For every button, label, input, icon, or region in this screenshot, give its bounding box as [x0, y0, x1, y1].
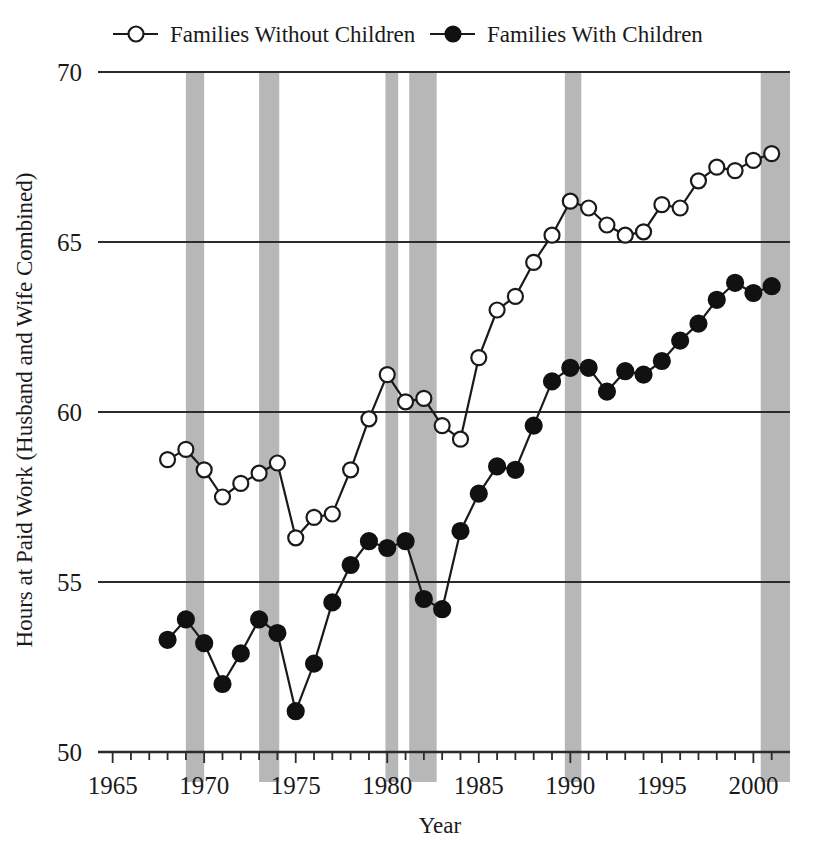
data-point: [526, 418, 542, 434]
data-point: [508, 289, 523, 304]
data-point: [727, 275, 743, 291]
legend-item-without-children: Families Without Children: [113, 22, 416, 47]
data-point: [545, 228, 560, 243]
x-tick-label: 1975: [271, 772, 321, 799]
data-point: [416, 391, 431, 406]
data-point: [343, 557, 359, 573]
data-point: [160, 452, 175, 467]
data-point: [196, 635, 212, 651]
data-point: [252, 466, 267, 481]
data-point: [361, 411, 376, 426]
data-point: [507, 462, 523, 478]
open-circle-icon: [129, 27, 144, 42]
shaded-band: [409, 72, 436, 782]
data-point: [288, 530, 303, 545]
data-point: [214, 676, 230, 692]
data-point: [562, 360, 578, 376]
data-point: [599, 218, 614, 233]
x-tick-label: 1980: [362, 772, 412, 799]
data-point: [746, 153, 761, 168]
data-point: [544, 373, 560, 389]
y-axis-labels: 5055606570: [57, 59, 82, 766]
data-point: [178, 611, 194, 627]
data-point: [728, 163, 743, 178]
line-chart: Families Without Children Families With …: [0, 0, 815, 851]
data-point: [471, 350, 486, 365]
filled-circle-icon: [446, 27, 461, 42]
data-point: [672, 333, 688, 349]
data-point: [398, 533, 414, 549]
x-axis-title: Year: [419, 813, 462, 838]
data-point: [361, 533, 377, 549]
data-point: [434, 601, 450, 617]
chart-legend: Families Without Children Families With …: [113, 22, 703, 47]
y-axis-title: Hours at Paid Work (Husband and Wife Com…: [12, 173, 37, 648]
data-point: [343, 462, 358, 477]
data-point: [709, 292, 725, 308]
data-point: [636, 224, 651, 239]
data-point: [178, 442, 193, 457]
chart-container: Families Without Children Families With …: [0, 0, 815, 851]
data-point: [618, 228, 633, 243]
shaded-band: [565, 72, 581, 782]
legend-label-with-children: Families With Children: [487, 22, 703, 47]
data-point: [745, 285, 761, 301]
data-point: [654, 353, 670, 369]
data-point: [197, 462, 212, 477]
legend-item-with-children: Families With Children: [430, 22, 703, 47]
x-tick-label: 1970: [179, 772, 229, 799]
data-point: [379, 540, 395, 556]
data-point: [306, 656, 322, 672]
data-point: [398, 394, 413, 409]
data-point: [654, 197, 669, 212]
x-tick-label: 1985: [454, 772, 504, 799]
data-point: [581, 201, 596, 216]
x-tick-label: 1990: [545, 772, 595, 799]
data-point: [288, 703, 304, 719]
data-point: [160, 632, 176, 648]
data-point: [636, 367, 652, 383]
data-point: [764, 278, 780, 294]
data-point: [270, 456, 285, 471]
y-tick-label: 70: [57, 59, 82, 86]
data-point: [233, 645, 249, 661]
data-point: [269, 625, 285, 641]
data-point: [690, 316, 706, 332]
y-tick-label: 65: [57, 229, 82, 256]
data-series: [160, 146, 780, 719]
data-point: [233, 476, 248, 491]
data-point: [563, 194, 578, 209]
data-point: [251, 611, 267, 627]
data-point: [490, 303, 505, 318]
data-point: [325, 507, 340, 522]
data-point: [489, 458, 505, 474]
data-point: [307, 510, 322, 525]
y-tick-label: 50: [57, 739, 82, 766]
data-point: [215, 490, 230, 505]
x-tick-label: 1965: [88, 772, 138, 799]
x-axis-ticks: [113, 752, 772, 763]
data-point: [691, 173, 706, 188]
data-point: [435, 418, 450, 433]
data-point: [617, 363, 633, 379]
data-point: [673, 201, 688, 216]
data-point: [599, 384, 615, 400]
legend-label-without-children: Families Without Children: [170, 22, 416, 47]
data-point: [764, 146, 779, 161]
data-point: [581, 360, 597, 376]
data-point: [526, 255, 541, 270]
data-point: [453, 432, 468, 447]
x-tick-label: 1995: [637, 772, 687, 799]
shaded-band: [385, 72, 398, 782]
x-tick-label: 2000: [728, 772, 778, 799]
data-point: [380, 367, 395, 382]
shaded-band: [186, 72, 204, 782]
y-tick-label: 60: [57, 399, 82, 426]
data-point: [709, 160, 724, 175]
data-point: [452, 523, 468, 539]
shaded-band: [259, 72, 279, 782]
data-point: [416, 591, 432, 607]
data-point: [471, 486, 487, 502]
y-tick-label: 55: [57, 569, 82, 596]
data-point: [324, 594, 340, 610]
